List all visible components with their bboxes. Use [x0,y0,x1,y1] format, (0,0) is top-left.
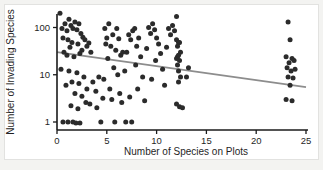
data-point [134,44,139,49]
data-point [74,27,79,32]
data-point [172,28,177,33]
data-point [170,23,175,28]
data-point [69,40,74,45]
x-axis-title: Number of Species on Plots [124,146,248,157]
data-point [106,21,111,26]
data-point [135,86,140,91]
data-point [88,50,93,55]
data-point [123,120,128,125]
data-point [184,74,189,79]
data-point [67,45,72,50]
data-point [66,17,71,22]
data-point [149,77,154,82]
data-point [148,31,153,36]
x-tick-label: 0 [54,135,59,146]
data-point [168,32,173,37]
data-point [287,60,292,65]
data-point [93,89,98,94]
data-point [76,81,81,86]
data-point [62,21,67,26]
y-tick-label: 1 [45,116,50,127]
data-point [150,21,155,26]
data-point [86,40,91,45]
y-tick-label: 100 [34,22,50,33]
data-point [286,20,291,25]
data-point [77,121,82,126]
data-point [176,69,181,74]
data-point [113,48,118,53]
data-point [114,26,119,31]
data-point [104,35,109,40]
data-point [84,86,89,91]
data-point [176,80,181,85]
data-point [291,76,296,81]
data-point [285,65,290,70]
data-point [101,77,106,82]
x-tick-label: 10 [151,135,162,146]
data-point [140,74,145,79]
data-point [138,54,143,59]
data-point [288,37,293,42]
data-point [75,41,80,46]
y-tick-label: 10 [39,69,50,80]
data-point [71,54,76,59]
data-point [109,97,114,102]
data-point [292,58,297,63]
data-point [127,94,132,99]
x-axis-ticks: 0510152025 [54,130,311,146]
data-point [96,74,101,79]
data-point [87,102,92,107]
data-point [59,26,64,31]
data-point [60,120,65,125]
data-point [128,37,133,42]
data-point [122,69,127,74]
data-point [107,86,112,91]
data-point [64,53,69,58]
data-point [284,54,289,59]
data-point [115,72,120,77]
data-point [72,91,77,96]
x-tick-label: 15 [201,135,212,146]
data-point [152,27,157,32]
data-point [144,46,149,51]
data-point [290,98,295,103]
data-point [164,45,169,50]
data-point [65,120,70,125]
y-axis-title: Number of Invading Species [5,9,16,135]
data-point [64,28,69,33]
data-point [160,67,165,72]
data-point [154,35,159,40]
data-point [126,32,131,37]
data-point [63,83,68,88]
data-point [68,103,73,108]
data-point [77,51,82,56]
data-point [178,74,183,79]
data-point [158,51,163,56]
data-point [111,65,116,70]
x-tick-label: 20 [251,135,262,146]
data-point [166,26,171,31]
data-point [100,96,105,101]
data-point [82,37,87,42]
data-point [94,105,99,110]
data-point [76,21,81,26]
data-point [180,105,185,110]
data-point [108,44,113,49]
data-point [58,67,63,72]
data-point [74,70,79,75]
data-point [177,58,182,63]
data-point [124,50,129,55]
data-point [117,91,122,96]
scatter-plot: 110100 0510152025 Number of Species on P… [0,0,323,170]
data-point [146,25,151,30]
data-point [286,74,291,79]
y-axis-ticks: 110100 [34,22,57,128]
data-point [66,69,71,74]
data-point [284,97,289,102]
data-point [129,120,134,125]
data-point [175,44,180,49]
data-point [69,80,74,85]
data-point [116,36,121,41]
data-point [103,41,108,46]
data-point [57,11,62,16]
